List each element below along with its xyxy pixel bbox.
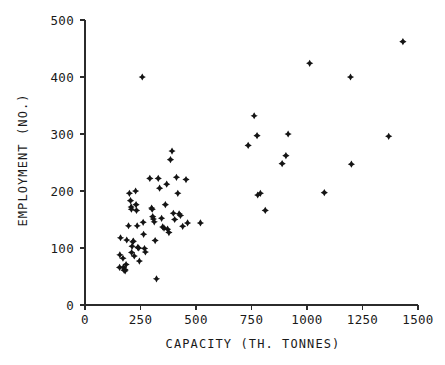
data-point — [285, 130, 292, 137]
data-point — [152, 237, 159, 244]
y-tick-label-100: 100 — [51, 241, 74, 256]
y-tick-label-500: 500 — [51, 13, 74, 28]
data-point — [321, 189, 328, 196]
data-point — [245, 142, 252, 149]
x-tick-label-750: 750 — [240, 312, 263, 327]
data-point — [262, 207, 269, 214]
data-point — [149, 206, 156, 213]
data-point — [279, 160, 286, 167]
data-point — [140, 219, 147, 226]
plot-canvas: 0100200300400500 0250500750100012501500 … — [0, 0, 445, 365]
data-point — [146, 175, 153, 182]
data-point — [132, 187, 139, 194]
data-point — [133, 207, 140, 214]
data-point — [251, 112, 258, 119]
data-points — [116, 38, 406, 282]
data-point — [167, 156, 174, 163]
data-point — [155, 175, 162, 182]
data-point — [156, 185, 163, 192]
y-tick-label-300: 300 — [51, 127, 74, 142]
data-point — [385, 133, 392, 140]
data-point — [306, 60, 313, 67]
data-point — [158, 215, 165, 222]
data-point — [184, 219, 191, 226]
x-tick-label-1500: 1500 — [402, 312, 433, 327]
x-axis-title: CAPACITY (TH. TONNES) — [166, 337, 341, 351]
data-point — [170, 210, 177, 217]
data-point — [163, 181, 170, 188]
data-point — [347, 73, 354, 80]
data-point — [173, 174, 180, 181]
data-point — [171, 216, 178, 223]
scatter-chart: 0100200300400500 0250500750100012501500 … — [0, 0, 445, 365]
data-point — [127, 197, 134, 204]
x-tick-label-500: 500 — [184, 312, 207, 327]
data-point — [253, 132, 260, 139]
data-point — [182, 176, 189, 183]
data-point — [197, 219, 204, 226]
x-tick-label-1000: 1000 — [291, 312, 322, 327]
data-point — [139, 73, 146, 80]
y-axis-title: EMPLOYMENT (NO.) — [16, 93, 30, 226]
y-tick-label-400: 400 — [51, 70, 74, 85]
data-point — [162, 201, 169, 208]
y-axis: 0100200300400500 — [51, 13, 85, 313]
data-point — [123, 236, 130, 243]
data-point — [134, 222, 141, 229]
data-point — [399, 38, 406, 45]
x-tick-label-1250: 1250 — [347, 312, 378, 327]
data-point — [136, 258, 143, 265]
data-point — [125, 222, 132, 229]
x-tick-label-250: 250 — [129, 312, 152, 327]
data-point — [140, 231, 147, 238]
data-point — [126, 190, 133, 197]
y-tick-label-0: 0 — [66, 298, 74, 313]
data-point — [174, 190, 181, 197]
data-point — [153, 275, 160, 282]
y-tick-label-200: 200 — [51, 184, 74, 199]
data-point — [135, 244, 142, 251]
x-axis: 0250500750100012501500 — [81, 305, 434, 327]
data-point — [168, 148, 175, 155]
data-point — [282, 152, 289, 159]
data-point — [117, 234, 124, 241]
data-point — [179, 223, 186, 230]
data-point — [348, 161, 355, 168]
data-point — [130, 238, 137, 245]
x-tick-label-0: 0 — [81, 312, 89, 327]
